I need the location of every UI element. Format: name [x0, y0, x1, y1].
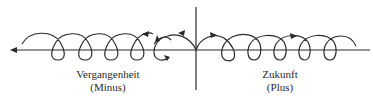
future-arrow-icon — [210, 32, 217, 38]
future-label: Zukunft (Plus) — [230, 68, 330, 94]
past-title: Vergangenheit — [58, 68, 158, 81]
past-label: Vergangenheit (Minus) — [58, 68, 158, 94]
future-spiral — [196, 34, 356, 60]
future-sign: (Plus) — [230, 81, 330, 94]
past-spiral — [22, 33, 153, 60]
axis-arrow-left-icon — [10, 47, 17, 53]
past-arrow-icon — [142, 31, 149, 37]
past-sign: (Minus) — [58, 81, 158, 94]
past-connector-arc — [168, 35, 196, 50]
future-title: Zukunft — [230, 68, 330, 81]
future-arrow-icon — [290, 33, 297, 39]
